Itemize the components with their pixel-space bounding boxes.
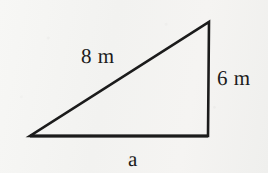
vertical-leg-label: 6 m bbox=[217, 68, 251, 89]
triangle-figure: 8 m 6 m a bbox=[0, 0, 268, 173]
hypotenuse-label: 8 m bbox=[81, 46, 115, 67]
triangle-outline bbox=[30, 22, 209, 136]
base-label: a bbox=[128, 149, 138, 170]
